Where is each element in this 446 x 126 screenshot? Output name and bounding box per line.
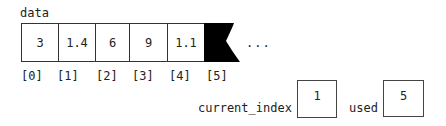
array-cell-2: 6 bbox=[95, 23, 129, 62]
index-label-2: [2] bbox=[96, 69, 118, 83]
current-index-label: current_index bbox=[198, 101, 292, 115]
data-array: 3 1.4 6 9 1.1 bbox=[21, 23, 205, 62]
used-box: 5 bbox=[383, 80, 424, 117]
array-cell-3: 9 bbox=[129, 23, 167, 62]
index-label-4: [4] bbox=[169, 69, 191, 83]
ellipsis: ... bbox=[246, 36, 271, 50]
index-label-0: [0] bbox=[21, 69, 43, 83]
array-cell-1: 1.4 bbox=[58, 23, 95, 62]
used-label: used bbox=[349, 101, 378, 115]
current-index-box: 1 bbox=[297, 80, 337, 118]
array-cell-4: 1.1 bbox=[167, 23, 205, 62]
array-cell-0: 3 bbox=[21, 23, 58, 62]
array-name-label: data bbox=[20, 6, 49, 20]
index-label-5: [5] bbox=[206, 69, 228, 83]
index-label-1: [1] bbox=[57, 69, 79, 83]
index-label-3: [3] bbox=[132, 69, 154, 83]
unused-array-region bbox=[204, 23, 244, 62]
